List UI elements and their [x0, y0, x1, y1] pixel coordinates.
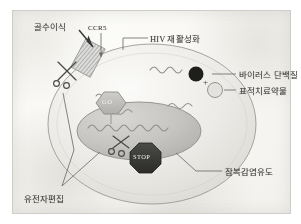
figure-container: 골수이식 CCR5 HIV 재활성화 바이러스 단백질 표적치료약물 잠복감염유… — [0, 0, 301, 224]
label-ccr5: CCR5 — [88, 24, 107, 32]
viral-protein-particle — [189, 67, 204, 82]
label-targeted-drug: 표적치료약물 — [239, 84, 288, 96]
go-sign-text: GO — [102, 98, 112, 105]
plus-symbol: + — [203, 77, 208, 87]
stop-sign-text: STOP — [133, 153, 150, 160]
label-latency-induction: 잠복감염유도 — [225, 165, 274, 177]
label-viral-protein: 바이러스 단백질 — [239, 68, 298, 80]
label-gene-editing: 유전자편집 — [24, 192, 65, 204]
targeted-drug-particle — [208, 83, 223, 98]
label-hiv-reactivation: HIV 재활성화 — [150, 32, 200, 44]
label-bone-marrow-transplant: 골수이식 — [34, 20, 66, 32]
